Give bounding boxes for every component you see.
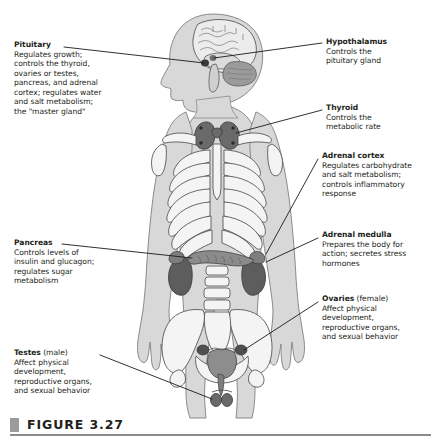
callout-adrenal-cortex-title: Adrenal cortex	[322, 151, 441, 161]
callout-ovaries-line-0: Affect physical	[322, 304, 441, 314]
figure-caption: FIGURE 3.27	[10, 418, 431, 438]
callout-thyroid-title: Thyroid	[326, 103, 438, 113]
figure-caption-marker	[10, 418, 19, 432]
callout-adrenal-medulla-title: Adrenal medulla	[322, 230, 441, 240]
callout-adrenal-medulla-line-2: hormones	[322, 259, 441, 269]
ribcage-illustration	[151, 133, 282, 261]
testes-illustration	[211, 390, 233, 407]
callout-hypothalamus: Hypothalamus Controls the pituitary glan…	[326, 37, 438, 66]
callout-pituitary-line-4: cortex; regulates water	[14, 88, 122, 98]
callout-pancreas-line-0: Controls levels of	[14, 248, 124, 258]
kidney-left	[168, 258, 192, 296]
callout-pituitary-line-0: Regulates growth;	[14, 50, 122, 60]
callout-ovaries-title: Ovaries (female)	[322, 294, 441, 304]
callout-pituitary-line-6: the "master gland"	[14, 107, 122, 117]
ovaries-uterus-illustration	[197, 345, 247, 396]
callout-ovaries-line-1: development,	[322, 313, 441, 323]
callout-pituitary-line-2: ovaries or testes,	[14, 69, 122, 79]
callout-pancreas: Pancreas Controls levels of insulin and …	[14, 238, 124, 286]
human-body-silhouette	[138, 14, 305, 418]
callout-adrenal-medulla: Adrenal medulla Prepares the body for ac…	[322, 230, 441, 268]
endocrine-system-figure: Pituitary Regulates growth; controls the…	[0, 0, 441, 441]
callout-ovaries-line-3: and sexual behavior	[322, 332, 441, 342]
vagina	[218, 374, 224, 396]
callout-thyroid: Thyroid Controls the metabolic rate	[326, 103, 438, 132]
callout-pancreas-line-3: metabolism	[14, 276, 124, 286]
callout-pituitary: Pituitary Regulates growth; controls the…	[14, 40, 122, 116]
callout-ovaries-line-2: reproductive organs,	[322, 323, 441, 333]
callout-adrenal-cortex-line-2: controls inflammatory	[322, 180, 441, 190]
callout-hypothalamus-title: Hypothalamus	[326, 37, 438, 47]
callout-hypothalamus-line-0: Controls the	[326, 47, 438, 57]
figure-caption-rule	[10, 434, 431, 436]
callout-testes-line-1: development,	[14, 367, 126, 377]
callout-pancreas-title: Pancreas	[14, 238, 124, 248]
kidney-right	[242, 258, 266, 296]
callout-adrenal-cortex-line-1: and salt metabolism;	[322, 170, 441, 180]
callout-adrenal-cortex: Adrenal cortex Regulates carbohydrate an…	[322, 151, 441, 199]
callout-pituitary-line-1: controls the thyroid,	[14, 59, 122, 69]
callout-testes-line-2: reproductive organs,	[14, 377, 126, 387]
adrenal-gland-right	[250, 251, 265, 263]
leader-hypothalamus	[214, 43, 322, 58]
callout-pituitary-title: Pituitary	[14, 40, 122, 50]
callout-testes-line-3: and sexual behavior	[14, 386, 126, 396]
figure-caption-label: FIGURE 3.27	[27, 417, 124, 432]
callout-thyroid-line-1: metabolic rate	[326, 122, 438, 132]
callout-testes-line-0: Affect physical	[14, 358, 126, 368]
ovary-left	[197, 345, 209, 355]
callout-adrenal-medulla-line-1: action; secretes stress	[322, 249, 441, 259]
callout-pancreas-line-2: regulates sugar	[14, 267, 124, 277]
callout-ovaries: Ovaries (female) Affect physical develop…	[322, 294, 441, 342]
pancreas-organ	[188, 251, 254, 266]
uterus	[208, 349, 237, 379]
adrenal-and-pancreas-illustration	[168, 251, 265, 310]
adrenal-gland-left	[169, 251, 184, 263]
callout-testes: Testes (male) Affect physical developmen…	[14, 348, 126, 396]
hypothalamus-gland	[210, 55, 217, 61]
callout-pituitary-line-3: pancreas, and adrenal	[14, 78, 122, 88]
callout-adrenal-cortex-line-3: response	[322, 189, 441, 199]
thyroid-gland	[195, 122, 240, 149]
callout-pancreas-line-1: insulin and glucagon;	[14, 257, 124, 267]
brain-illustration	[193, 20, 257, 93]
ovary-right	[235, 345, 247, 355]
leader-ovaries	[244, 302, 318, 350]
callout-adrenal-cortex-line-0: Regulates carbohydrate	[322, 161, 441, 171]
callout-testes-title: Testes (male)	[14, 348, 126, 358]
pituitary-gland	[201, 60, 209, 67]
callout-thyroid-line-0: Controls the	[326, 113, 438, 123]
callout-pituitary-line-5: and salt metabolism;	[14, 97, 122, 107]
leader-thyroid	[236, 110, 322, 133]
callout-adrenal-medulla-line-0: Prepares the body for	[322, 240, 441, 250]
callout-hypothalamus-line-1: pituitary gland	[326, 56, 438, 66]
leader-adrenal-cortex	[266, 159, 318, 254]
leader-adrenal-medulla	[266, 238, 318, 262]
pelvis-illustration	[162, 310, 272, 388]
